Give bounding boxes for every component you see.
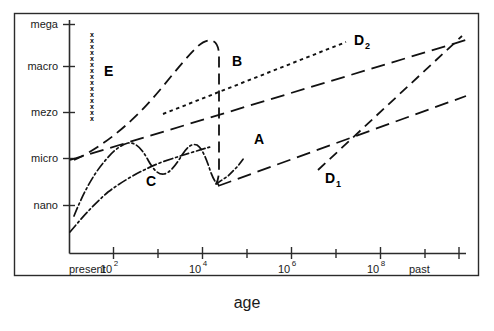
x-tick-exp-4: 8: [381, 259, 386, 268]
x-tick-label-1e8: 10 8: [367, 259, 386, 275]
svg-text:x: x: [90, 115, 94, 122]
x-tick-exp-1: 2: [114, 259, 119, 268]
series-label-A: A: [254, 131, 264, 147]
series-A-kink: [216, 158, 244, 184]
series-B-curve: [74, 40, 219, 184]
x-tick-label-1e4: 10 4: [189, 259, 208, 275]
series-E-marker-column: x x x x x x x x x x x x x x x: [90, 31, 94, 122]
series-D1-line: [318, 36, 462, 170]
y-tick-label-mezo: mezo: [31, 106, 58, 118]
series-label-D2-base: D: [354, 32, 364, 48]
series-upper-trend-line: [70, 40, 466, 160]
y-tick-label-macro: macro: [27, 60, 58, 72]
x-tick-base-3: 10: [278, 263, 290, 275]
x-axis-start-label: present: [69, 263, 106, 275]
series-label-B: B: [232, 53, 242, 69]
x-tick-exp-2: 4: [203, 259, 208, 268]
y-tick-label-micro: micro: [31, 152, 58, 164]
series-label-D2-sub: 2: [365, 41, 370, 51]
x-tick-label-1e6: 10 6: [278, 259, 297, 275]
series-label-D1-base: D: [325, 170, 335, 186]
x-tick-base-4: 10: [367, 263, 379, 275]
x-tick-base-2: 10: [189, 263, 201, 275]
x-axis-end-label: past: [409, 263, 430, 275]
figure-frame: [15, 14, 479, 276]
x-axis-title: age: [234, 294, 261, 311]
series-label-D1-sub: 1: [336, 179, 341, 189]
series-label-D2: D 2: [354, 32, 370, 51]
y-tick-label-nano: nano: [34, 199, 58, 211]
series-label-E: E: [104, 63, 113, 79]
series-label-C: C: [146, 173, 156, 189]
figure-container: mega macro mezo micro nano 10 2 10 4 10 …: [0, 0, 494, 331]
series-A-lead-curve: [70, 147, 210, 232]
x-tick-exp-3: 6: [292, 259, 297, 268]
series-label-D1: D 1: [325, 170, 341, 189]
y-tick-label-mega: mega: [30, 18, 58, 30]
chart-svg: mega macro mezo micro nano 10 2 10 4 10 …: [0, 0, 494, 331]
